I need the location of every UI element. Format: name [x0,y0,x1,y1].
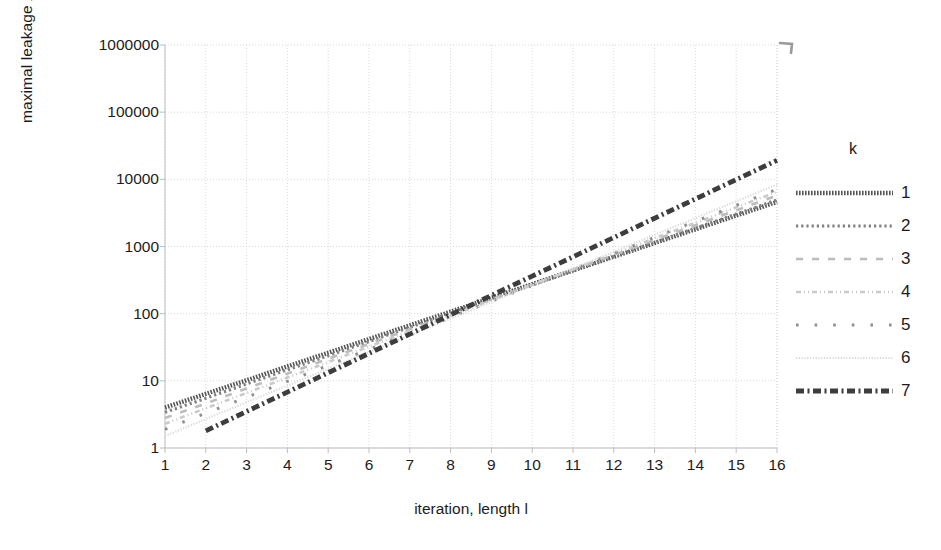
legend-swatch-6 [793,343,898,373]
x-tick-label: 3 [242,456,251,474]
legend-title: k [793,140,913,158]
x-tick-label: 9 [487,456,496,474]
x-tick-label: 4 [283,456,292,474]
legend-row[interactable]: 7 [793,376,933,406]
axis-lines [160,45,777,453]
stray-mark-artifact [778,40,800,58]
legend-label: 1 [901,183,910,203]
legend-swatch-1 [793,178,898,208]
x-tick-label: 6 [365,456,374,474]
legend-swatch-7 [793,376,898,406]
legend-row[interactable]: 3 [793,244,933,274]
x-tick-label: 5 [324,456,333,474]
x-tick-label: 11 [565,456,581,474]
chart-legend: k 1234567 [793,140,933,410]
x-tick-label: 13 [646,456,663,474]
legend-swatch-3 [793,244,898,274]
x-tick-label: 12 [605,456,622,474]
legend-label: 2 [901,216,910,236]
legend-swatch-5 [793,310,898,340]
x-tick-label: 16 [768,456,785,474]
gridlines [165,45,777,448]
legend-row[interactable]: 2 [793,211,933,241]
x-tick-label: 8 [446,456,455,474]
legend-label: 7 [901,381,910,401]
x-axis-tick-labels: 12345678910111213141516 [165,456,777,484]
legend-row[interactable]: 5 [793,310,933,340]
series-line-6 [165,185,777,437]
x-tick-label: 2 [201,456,210,474]
x-tick-label: 15 [728,456,745,474]
legend-row[interactable]: 1 [793,178,933,208]
legend-row[interactable]: 4 [793,277,933,307]
legend-row[interactable]: 6 [793,343,933,373]
x-tick-label: 14 [687,456,704,474]
legend-label: 5 [901,315,910,335]
x-tick-label: 10 [524,456,541,474]
legend-label: 4 [901,282,910,302]
x-axis-title: iteration, length l [165,500,777,518]
series-lines [165,160,777,436]
x-tick-label: 7 [405,456,414,474]
chart-container: maximal leakage λ 1000000100000100001000… [0,0,941,550]
x-tick-label: 1 [161,456,170,474]
legend-swatch-4 [793,277,898,307]
legend-label: 3 [901,249,910,269]
legend-label: 6 [901,348,910,368]
legend-swatch-2 [793,211,898,241]
